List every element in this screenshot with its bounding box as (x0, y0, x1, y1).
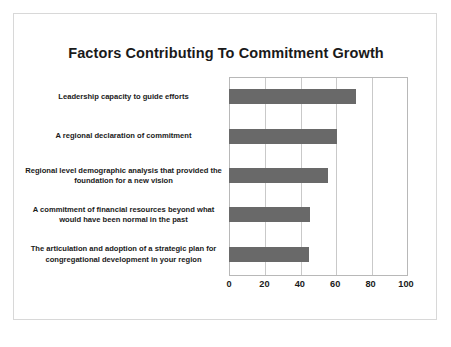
bar-row (229, 116, 406, 155)
bar (229, 89, 356, 104)
bar (229, 168, 328, 183)
category-axis: Leadership capacity to guide efforts A r… (22, 77, 225, 274)
bar-row (229, 156, 406, 195)
x-tick-label: 0 (226, 279, 231, 289)
category-label: A regional declaration of commitment (22, 131, 225, 142)
category-label: Leadership capacity to guide efforts (22, 91, 225, 102)
category-label: The articulation and adoption of a strat… (22, 244, 225, 265)
chart-title: Factors Contributing To Commitment Growt… (14, 45, 438, 61)
x-tick-label: 100 (398, 279, 413, 289)
category-label: Regional level demographic analysis that… (22, 165, 225, 186)
x-tick-label: 80 (365, 279, 375, 289)
bar (229, 207, 310, 222)
x-tick-label: 60 (330, 279, 340, 289)
bar-row (229, 195, 406, 234)
x-tick-label: 20 (259, 279, 269, 289)
value-axis: 0 20 40 60 80 100 (229, 279, 406, 297)
category-label: A commitment of financial resources beyo… (22, 204, 225, 225)
bars-layer (229, 77, 406, 274)
bar (229, 129, 337, 144)
x-tick-label: 40 (295, 279, 305, 289)
bar-row (229, 235, 406, 274)
slide-frame: Factors Contributing To Commitment Growt… (13, 13, 437, 320)
bar (229, 247, 309, 262)
bar-row (229, 77, 406, 116)
bar-chart: Leadership capacity to guide efforts A r… (14, 65, 438, 310)
